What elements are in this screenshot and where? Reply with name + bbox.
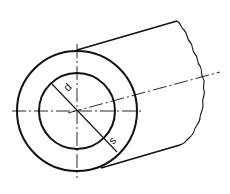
label-wall-thickness: s: [106, 134, 119, 147]
tube-diagram: d s: [0, 0, 230, 194]
label-s-group: s: [106, 134, 119, 147]
label-inner-diameter: d: [61, 81, 74, 94]
break-line: [177, 21, 204, 145]
diameter-line: [52, 84, 117, 152]
top-tangent-line: [77, 21, 177, 50]
tube-axis-line: [68, 72, 220, 113]
label-d-group: d: [61, 81, 74, 94]
